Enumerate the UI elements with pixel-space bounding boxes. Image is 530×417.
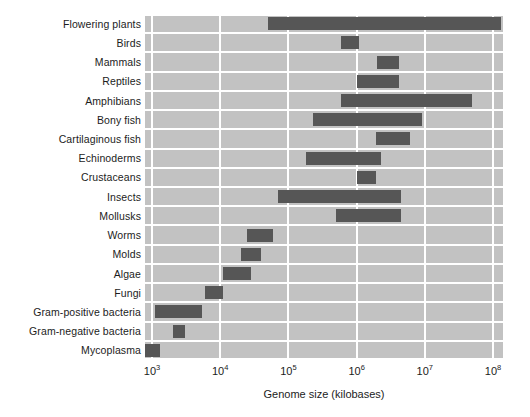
- x-tick-mantissa: 10: [144, 365, 156, 377]
- x-tick-exponent: 3: [156, 363, 160, 372]
- x-tick-mantissa: 10: [348, 365, 360, 377]
- row-separator: [145, 186, 503, 188]
- y-axis-label: Molds: [0, 248, 141, 260]
- y-axis-label: Algae: [0, 268, 141, 280]
- x-tick-exponent: 6: [361, 363, 365, 372]
- y-axis-label: Fungi: [0, 287, 141, 299]
- x-tick-mantissa: 10: [485, 365, 497, 377]
- x-gridline: [356, 14, 358, 360]
- row-separator: [145, 109, 503, 111]
- genome-size-chart: Flowering plantsBirdsMammalsReptilesAmph…: [0, 0, 530, 417]
- row-separator: [145, 32, 503, 34]
- range-bar: [205, 286, 223, 299]
- y-axis-label: Mammals: [0, 56, 141, 68]
- y-axis-label: Gram-negative bacteria: [0, 325, 141, 337]
- x-tick-mantissa: 10: [212, 365, 224, 377]
- x-tick-exponent: 8: [497, 363, 501, 372]
- range-bar: [341, 94, 472, 107]
- y-axis-label: Worms: [0, 229, 141, 241]
- range-bar: [268, 17, 501, 30]
- x-axis-tick-labels: 103104105106107108: [0, 364, 530, 382]
- range-bar: [357, 171, 376, 184]
- y-axis-label: Mollusks: [0, 210, 141, 222]
- y-axis-label: Gram-positive bacteria: [0, 306, 141, 318]
- y-axis-category-labels: Flowering plantsBirdsMammalsReptilesAmph…: [0, 14, 141, 360]
- x-axis-title: Genome size (kilobases): [145, 388, 503, 400]
- row-separator: [145, 263, 503, 265]
- x-tick-exponent: 4: [224, 363, 228, 372]
- range-bar: [145, 344, 159, 357]
- range-bar: [377, 56, 399, 69]
- row-separator: [145, 71, 503, 73]
- row-separator: [145, 340, 503, 342]
- x-tick-label: 108: [485, 364, 501, 378]
- x-tick-label: 105: [280, 364, 296, 378]
- x-gridline: [151, 14, 153, 360]
- y-axis-label: Echinoderms: [0, 152, 141, 164]
- plot-area: [145, 14, 503, 360]
- x-tick-mantissa: 10: [280, 365, 292, 377]
- y-axis-label: Flowering plants: [0, 18, 141, 30]
- range-bar: [247, 229, 273, 242]
- row-separator: [145, 301, 503, 303]
- row-separator: [145, 321, 503, 323]
- row-separator: [145, 51, 503, 53]
- row-separator: [145, 14, 503, 16]
- range-bar: [336, 209, 401, 222]
- x-tick-exponent: 7: [429, 363, 433, 372]
- range-bar: [241, 248, 262, 261]
- range-bar: [376, 132, 410, 145]
- row-separator: [145, 148, 503, 150]
- row-separator: [145, 224, 503, 226]
- x-tick-label: 107: [417, 364, 433, 378]
- range-bar: [341, 36, 359, 49]
- x-tick-label: 106: [348, 364, 364, 378]
- row-separator: [145, 358, 503, 360]
- x-tick-label: 104: [212, 364, 228, 378]
- y-axis-label: Reptiles: [0, 75, 141, 87]
- x-tick-label: 103: [144, 364, 160, 378]
- range-bar: [223, 267, 251, 280]
- range-bar: [357, 75, 400, 88]
- x-gridline: [287, 14, 289, 360]
- x-tick-exponent: 5: [292, 363, 296, 372]
- x-tick-mantissa: 10: [417, 365, 429, 377]
- y-axis-label: Cartilaginous fish: [0, 133, 141, 145]
- range-bar: [313, 113, 422, 126]
- y-axis-label: Insects: [0, 191, 141, 203]
- range-bar: [306, 152, 381, 165]
- x-gridline: [219, 14, 221, 360]
- range-bar: [278, 190, 401, 203]
- range-bar: [155, 305, 203, 318]
- range-bar: [173, 325, 185, 338]
- row-separator: [145, 205, 503, 207]
- y-axis-label: Crustaceans: [0, 171, 141, 183]
- x-gridline: [424, 14, 426, 360]
- y-axis-label: Mycoplasma: [0, 344, 141, 356]
- row-separator: [145, 167, 503, 169]
- row-separator: [145, 90, 503, 92]
- row-separator: [145, 282, 503, 284]
- row-separator: [145, 244, 503, 246]
- row-separator: [145, 128, 503, 130]
- y-axis-label: Bony fish: [0, 114, 141, 126]
- x-gridline: [492, 14, 494, 360]
- y-axis-label: Birds: [0, 37, 141, 49]
- y-axis-label: Amphibians: [0, 95, 141, 107]
